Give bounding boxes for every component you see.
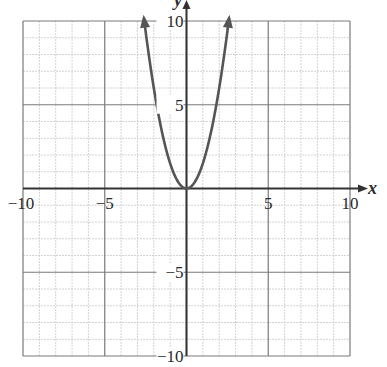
x-tick-label: −10: [8, 194, 35, 213]
x-axis-label: x: [367, 178, 377, 198]
y-tick-label: −5: [165, 263, 183, 282]
x-tick-label: 10: [342, 194, 359, 213]
axes: [23, 0, 368, 356]
x-tick-label: 5: [264, 194, 273, 213]
y-axis-arrow-icon: [183, 0, 191, 9]
y-tick-label: 10: [167, 12, 184, 31]
y-tick-label: −10: [157, 347, 184, 366]
parabola-chart: −10−5510105−5−10 x y: [0, 0, 387, 367]
x-axis-arrow-icon: [358, 185, 368, 193]
x-tick-label: −5: [96, 194, 114, 213]
y-axis-label: y: [172, 0, 183, 10]
y-tick-label: 5: [175, 96, 184, 115]
